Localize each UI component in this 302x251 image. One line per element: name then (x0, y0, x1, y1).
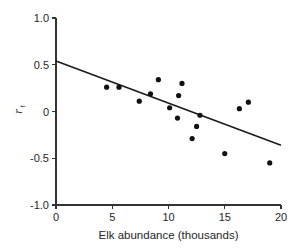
data-point (175, 115, 180, 120)
x-tick-label: 10 (162, 211, 174, 223)
data-point (197, 113, 202, 118)
x-axis-title: Elk abundance (thousands) (98, 229, 238, 241)
y-tick-label: 0 (43, 106, 49, 118)
data-point (179, 81, 184, 86)
data-point (104, 85, 109, 90)
scatter-plot-figure: 1.00.50-0.5-1.005101520Elk abundance (th… (0, 0, 302, 251)
y-tick-label: -0.5 (30, 152, 49, 164)
data-point (137, 99, 142, 104)
data-point (190, 136, 195, 141)
y-axis-title: rt (11, 105, 27, 114)
data-point (167, 105, 172, 110)
x-tick-label: 0 (53, 211, 59, 223)
x-tick-label: 5 (109, 211, 115, 223)
chart-canvas: 1.00.50-0.5-1.005101520Elk abundance (th… (0, 0, 302, 251)
data-point (222, 151, 227, 156)
x-tick-label: 20 (275, 211, 287, 223)
y-tick-label: 0.5 (34, 59, 49, 71)
data-point (237, 106, 242, 111)
y-tick-label: -1.0 (30, 199, 49, 211)
data-point (156, 77, 161, 82)
data-point (194, 124, 199, 129)
data-point (176, 93, 181, 98)
svg-text:t: t (18, 105, 27, 108)
data-point (267, 160, 272, 165)
data-point (116, 85, 121, 90)
y-tick-label: 1.0 (34, 12, 49, 24)
data-point (246, 100, 251, 105)
data-point (148, 91, 153, 96)
svg-text:r: r (11, 109, 25, 114)
x-tick-label: 15 (219, 211, 231, 223)
